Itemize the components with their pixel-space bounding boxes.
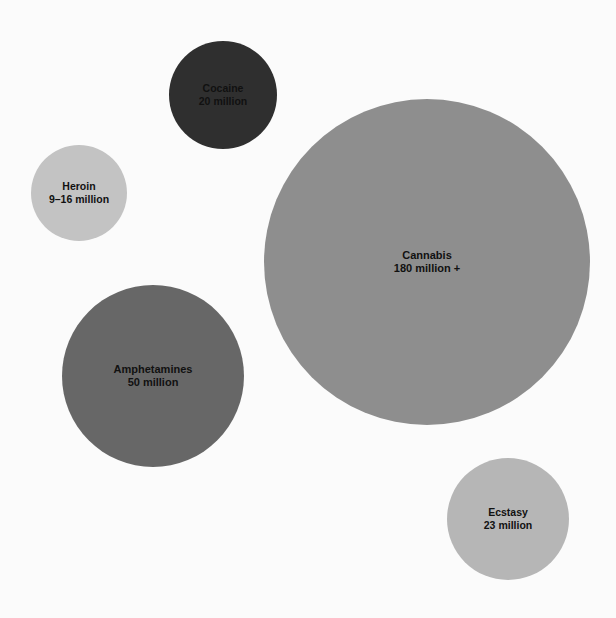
bubble-value: 23 million	[484, 519, 532, 532]
bubble-cocaine: Cocaine 20 million	[169, 41, 277, 149]
bubble-value: 180 million +	[394, 262, 460, 275]
bubble-chart: Cocaine 20 million Heroin 9–16 million C…	[0, 0, 616, 618]
bubble-label: Cannabis	[402, 249, 452, 262]
bubble-value: 20 million	[199, 95, 247, 108]
bubble-value: 50 million	[128, 376, 179, 389]
bubble-amphetamines: Amphetamines 50 million	[62, 285, 244, 467]
bubble-label: Cocaine	[203, 82, 244, 95]
bubble-ecstasy: Ecstasy 23 million	[447, 458, 569, 580]
bubble-value: 9–16 million	[49, 193, 109, 206]
bubble-heroin: Heroin 9–16 million	[31, 145, 127, 241]
bubble-label: Ecstasy	[488, 506, 528, 519]
bubble-cannabis: Cannabis 180 million +	[264, 99, 590, 425]
bubble-label: Amphetamines	[114, 363, 193, 376]
bubble-label: Heroin	[62, 180, 95, 193]
